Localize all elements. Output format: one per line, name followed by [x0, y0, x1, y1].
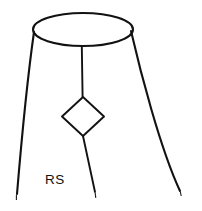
lower-stem-line: [83, 136, 95, 192]
rs-label: RS: [45, 172, 65, 187]
right-leg-curve: [131, 31, 180, 191]
right-leg-end-tick: [180, 192, 181, 196]
center-diamond: [62, 97, 104, 136]
upper-stem-line: [82, 46, 83, 97]
diagram-canvas: RS: [0, 0, 202, 211]
top-ellipse: [33, 13, 133, 46]
line-drawing-figure: RS: [0, 0, 202, 211]
left-leg-curve: [17, 32, 34, 194]
center-leg-end-tick: [95, 193, 96, 198]
